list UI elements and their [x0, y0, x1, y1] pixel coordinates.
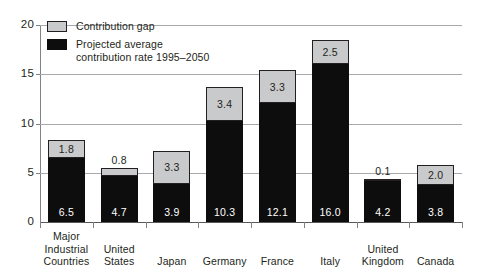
bar-value-label: 12.1: [259, 207, 296, 218]
legend-item: Projected average contribution rate 1995…: [47, 38, 247, 63]
x-axis-tick-mark: [251, 222, 252, 228]
y-axis-tick-label: 10: [0, 118, 34, 130]
bar-value-label: 16.0: [312, 207, 349, 218]
bar-segment-projected-rate: 4.7: [101, 176, 138, 222]
bar-stack: 12.13.3: [259, 25, 296, 222]
x-axis-tick-mark: [462, 222, 463, 228]
y-axis-tick-label: 20: [0, 19, 34, 31]
bar-stack: 16.02.5: [312, 25, 349, 222]
bar-segment-projected-rate: 16.0: [312, 64, 349, 222]
x-axis-tick-mark: [40, 222, 41, 228]
x-axis-tick-mark: [357, 222, 358, 228]
bar-value-label: 10.3: [206, 207, 243, 218]
legend-item: Contribution gap: [47, 20, 247, 35]
bar-value-label: 2.5: [312, 47, 349, 58]
x-axis-tick-label: UnitedKingdom: [357, 243, 410, 268]
x-axis-tick-label: Italy: [304, 255, 357, 268]
x-axis-tick-label: Germany: [198, 255, 251, 268]
bar-value-label: 0.8: [101, 155, 138, 166]
x-axis-tick-mark: [146, 222, 147, 228]
bar-stack: 4.20.1: [364, 25, 401, 222]
x-axis-tick-mark: [409, 222, 410, 228]
y-axis-tick-mark: [36, 74, 40, 75]
bar-value-label: 3.8: [417, 207, 454, 218]
bar-value-label: 2.0: [417, 170, 454, 181]
y-axis-tick-label: 15: [0, 68, 34, 80]
legend-swatch-contribution-gap: [47, 21, 67, 32]
legend-label: Contribution gap: [76, 20, 247, 33]
bar-value-label: 3.3: [259, 82, 296, 93]
bar-segment-projected-rate: 4.2: [364, 181, 401, 222]
bar-value-label: 0.1: [364, 166, 401, 177]
bar-chart: 6.51.84.70.83.93.310.33.412.13.316.02.54…: [0, 0, 485, 277]
x-axis-tick-label: MajorIndustrialCountries: [40, 230, 93, 268]
bar-segment-projected-rate: 6.5: [48, 158, 85, 222]
bar-value-label: 4.2: [364, 207, 401, 218]
bar-segment-projected-rate: 3.8: [417, 185, 454, 222]
bar-value-label: 3.9: [153, 207, 190, 218]
bar-value-label: 1.8: [48, 144, 85, 155]
x-axis-tick-label: France: [251, 255, 304, 268]
y-axis-tick-mark: [36, 173, 40, 174]
bar-segment-contribution-gap: [364, 179, 401, 181]
bar-stack: 3.82.0: [417, 25, 454, 222]
y-axis-tick-mark: [36, 25, 40, 26]
y-axis-tick-label: 5: [0, 167, 34, 179]
x-axis-tick-mark: [93, 222, 94, 228]
bar-value-label: 4.7: [101, 207, 138, 218]
legend-label: Projected average contribution rate 1995…: [76, 38, 247, 63]
bar-segment-projected-rate: 3.9: [153, 184, 190, 222]
y-axis-tick-mark: [36, 124, 40, 125]
x-axis-tick-label: Canada: [409, 255, 462, 268]
x-axis-tick-mark: [304, 222, 305, 228]
bar-value-label: 6.5: [48, 207, 85, 218]
bar-value-label: 3.4: [206, 99, 243, 110]
x-axis-tick-mark: [198, 222, 199, 228]
x-axis-tick-label: Japan: [146, 255, 199, 268]
chart-legend: Contribution gap Projected average contr…: [47, 20, 247, 66]
bar-value-label: 3.3: [153, 162, 190, 173]
bar-segment-projected-rate: 10.3: [206, 121, 243, 222]
legend-swatch-projected-rate: [47, 39, 67, 50]
bar-segment-contribution-gap: [101, 168, 138, 176]
bar-segment-projected-rate: 12.1: [259, 103, 296, 222]
x-axis-tick-label: UnitedStates: [93, 243, 146, 268]
y-axis-tick-label: 0: [0, 216, 34, 228]
